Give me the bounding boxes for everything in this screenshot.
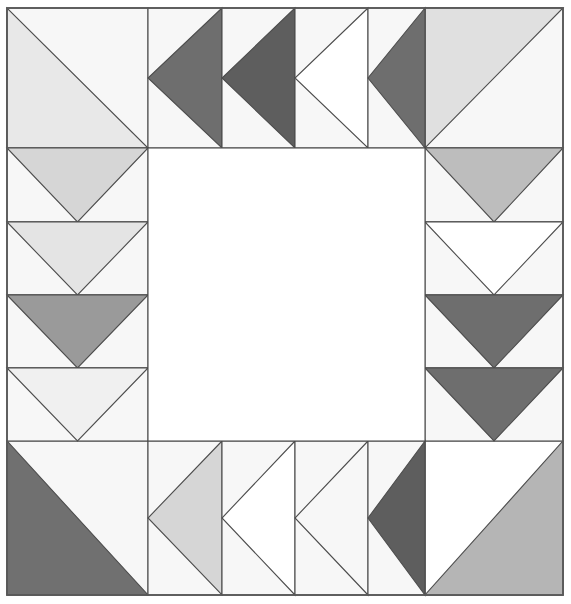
top-left-corner: [7, 8, 148, 148]
goose-bottom-2: [222, 441, 295, 595]
bottom-left-corner: [7, 441, 148, 595]
goose-top-4: [368, 8, 425, 148]
goose-right-2: [425, 222, 563, 295]
goose-bottom-4: [368, 441, 425, 595]
goose-left-3: [7, 295, 148, 368]
bottom-right-corner: [425, 441, 563, 595]
goose-top-2: [222, 8, 295, 148]
center-panel: [148, 148, 425, 441]
goose-left-1: [7, 148, 148, 222]
goose-bottom-3: [295, 441, 368, 595]
goose-top-1: [148, 8, 222, 148]
quilt-canvas: [0, 0, 571, 604]
quilt-block-figure: [0, 0, 571, 604]
goose-left-2: [7, 222, 148, 295]
goose-bottom-1: [148, 441, 222, 595]
goose-top-3: [295, 8, 368, 148]
top-right-corner: [425, 8, 563, 148]
goose-right-3: [425, 295, 563, 368]
goose-left-4: [7, 368, 148, 441]
goose-right-4: [425, 368, 563, 441]
goose-right-1: [425, 148, 563, 222]
